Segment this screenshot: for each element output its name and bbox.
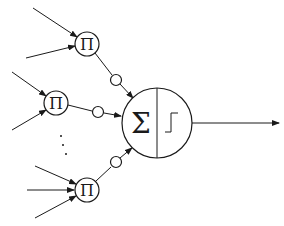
sigma-pi-neuron-diagram: Π Π Π Σ	[0, 0, 284, 226]
pi-label: Π	[80, 35, 94, 54]
product-node-top: Π	[75, 32, 99, 56]
weight-node-bottom	[111, 157, 122, 168]
pi-label: Π	[80, 181, 94, 200]
pi-label: Π	[49, 94, 63, 113]
weight-node-middle	[93, 107, 104, 118]
inputs-top	[26, 8, 77, 58]
neuron-node: Σ	[122, 88, 192, 158]
weight-node-top	[111, 75, 122, 86]
inputs-bottom	[27, 166, 76, 218]
sum-symbol: Σ	[131, 107, 151, 140]
inputs-middle	[12, 72, 46, 130]
product-node-bottom: Π	[75, 178, 99, 202]
product-node-middle: Π	[44, 91, 68, 115]
ellipsis-dots	[60, 135, 67, 155]
